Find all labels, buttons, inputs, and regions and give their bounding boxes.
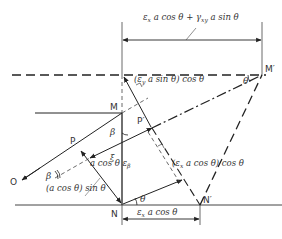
beta-right-label: β <box>109 127 115 137</box>
beta-reference-dashed <box>55 158 90 178</box>
label-m-prime: M′ <box>265 64 275 74</box>
label-p-prime: P′ <box>137 116 144 126</box>
pprime-to-p-arrow <box>90 128 152 158</box>
nprime-mprime-dashed <box>200 75 262 205</box>
label-o: O <box>10 177 17 187</box>
label-n-prime: N′ <box>203 195 212 205</box>
dashed-parallel-m <box>122 98 148 113</box>
label-n: N <box>111 209 118 219</box>
acos-sin-label: (a cos θ) sin θ <box>46 183 106 193</box>
beta-arc-right <box>122 133 128 135</box>
n-to-pprime-arrow <box>123 180 182 204</box>
beta-left-label: β <box>45 171 51 181</box>
top-dim-leader <box>186 28 196 40</box>
label-p: P <box>70 136 76 146</box>
o-arrow <box>22 168 40 180</box>
strain-diagram: M′ M P′ P O N N′ εx a cos θ + γxy a sin … <box>0 0 282 239</box>
top-dimension-label: εx a cos θ + γxy a sin θ <box>143 12 239 24</box>
bottom-dimension-label: εx a cos θ <box>137 207 177 218</box>
ex-term-label: (εx a cos θ) cos θ <box>172 158 244 169</box>
ey-term-label: (εy a sin θ) cos θ <box>134 74 204 86</box>
label-m: M <box>110 102 118 112</box>
theta-bottom-label: θ <box>140 194 146 204</box>
right-angle-mark-1 <box>158 144 164 148</box>
theta-top-label: θ <box>243 76 249 86</box>
xi-label: ξ <box>110 153 115 162</box>
